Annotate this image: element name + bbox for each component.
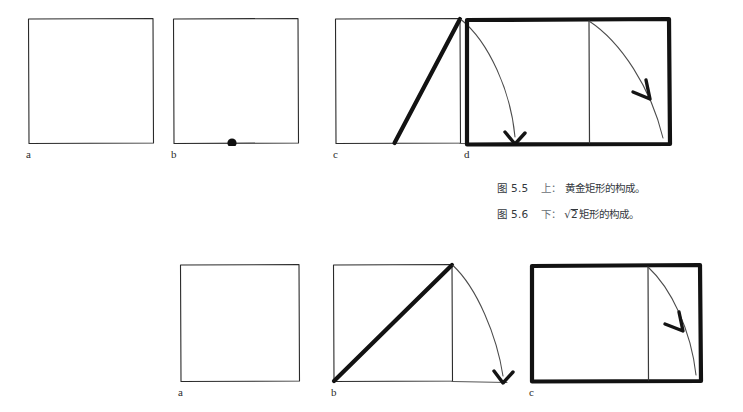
swing-arc: [453, 266, 503, 377]
swing-arc: [589, 21, 663, 138]
panel-label-bottom-c: c: [529, 387, 534, 398]
caption-figure-5-6: 图 5.6 下： √2矩形的构成。: [497, 208, 737, 221]
figure-page: a b: [0, 0, 743, 412]
panel-bottom-b: b: [331, 262, 521, 386]
panel-bottom-c-drawing: [528, 262, 728, 386]
panel-label-top-a: a: [26, 149, 31, 160]
arrowhead-icon: [665, 312, 683, 331]
panel-bottom-c: c: [528, 262, 728, 386]
panel-top-d-drawing: [463, 16, 713, 148]
stipple-fill: [534, 268, 647, 378]
stipple-fill: [335, 18, 461, 144]
panel-bottom-b-drawing: [331, 262, 521, 386]
panel-top-b: b: [171, 16, 301, 146]
panel-label-top-d: d: [464, 149, 470, 160]
arrowhead-icon: [494, 371, 513, 383]
baseline-extension: [452, 382, 507, 383]
caption-number: 图 5.6: [497, 208, 529, 220]
stipple-fill: [180, 264, 300, 381]
panel-label-bottom-b: b: [331, 387, 337, 398]
panel-top-a-drawing: [26, 16, 156, 146]
figure-captions: 图 5.5 上： 黄金矩形的构成。 图 5.6 下： √2矩形的构成。: [497, 182, 737, 221]
caption-position-word: 上：: [541, 182, 561, 194]
panel-bottom-a: a: [178, 262, 304, 384]
panel-label-bottom-a: a: [178, 387, 183, 398]
stipple-fill: [28, 18, 154, 144]
panel-top-b-drawing: [171, 16, 301, 146]
square-division-line: [648, 267, 649, 380]
caption-text: 黄金矩形的构成。: [565, 182, 645, 194]
panel-label-top-c: c: [333, 149, 338, 160]
stipple-fill: [469, 22, 588, 141]
caption-number: 图 5.5: [497, 182, 529, 194]
stipple-fill: [173, 18, 299, 144]
radical-glyph: √: [564, 208, 571, 220]
panel-top-d: d: [463, 16, 713, 148]
square-root-symbol: √2: [564, 208, 577, 221]
square-division-line: [589, 21, 590, 143]
swing-arc: [648, 267, 696, 375]
panel-top-a: a: [26, 16, 156, 146]
panel-bottom-a-drawing: [178, 262, 304, 384]
caption-figure-5-5: 图 5.5 上： 黄金矩形的构成。: [497, 182, 737, 195]
radical-overbar: [571, 209, 577, 210]
panel-label-top-b: b: [171, 149, 177, 160]
caption-text: 矩形的构成。: [579, 208, 639, 220]
caption-position-word: 下：: [541, 208, 561, 220]
